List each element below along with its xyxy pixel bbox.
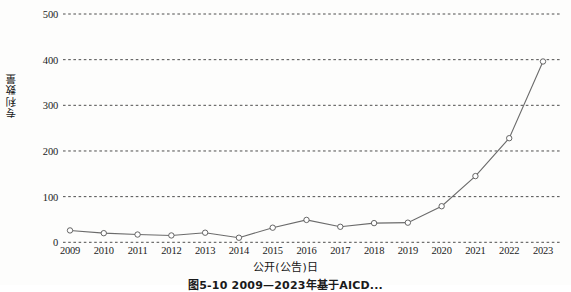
y-tick-100: 100: [20, 191, 58, 202]
x-tick-2023: 2023: [533, 245, 553, 256]
y-tick-300: 300: [20, 100, 58, 111]
data-point-2010: [101, 230, 106, 235]
data-markers-group: [67, 59, 545, 241]
data-point-2022: [507, 136, 512, 141]
data-point-2019: [405, 220, 410, 225]
data-point-2016: [304, 217, 309, 222]
x-tick-2019: 2019: [398, 245, 418, 256]
data-point-2020: [439, 204, 444, 209]
data-point-2014: [236, 235, 241, 240]
gridlines-group: [63, 14, 562, 242]
x-tick-2018: 2018: [364, 245, 384, 256]
x-tick-2011: 2011: [128, 245, 148, 256]
x-axis-title: 公开(公告)日: [0, 258, 571, 274]
x-tick-2014: 2014: [229, 245, 249, 256]
data-point-2023: [540, 59, 545, 64]
x-tick-2021: 2021: [465, 245, 485, 256]
data-point-2021: [473, 173, 478, 178]
y-tick-400: 400: [20, 54, 58, 65]
data-point-2017: [338, 224, 343, 229]
data-point-2012: [169, 233, 174, 238]
x-tick-2015: 2015: [263, 245, 283, 256]
data-point-2018: [371, 220, 376, 225]
x-tick-2017: 2017: [330, 245, 350, 256]
data-point-2013: [202, 230, 207, 235]
x-tick-2012: 2012: [161, 245, 181, 256]
data-point-2015: [270, 225, 275, 230]
data-line: [70, 61, 543, 237]
data-point-2011: [135, 232, 140, 237]
x-tick-2013: 2013: [195, 245, 215, 256]
x-tick-2010: 2010: [94, 245, 114, 256]
x-tick-2020: 2020: [431, 245, 451, 256]
data-point-2009: [67, 228, 72, 233]
y-tick-200: 200: [20, 146, 58, 157]
x-tick-2009: 2009: [60, 245, 80, 256]
x-tick-2016: 2016: [296, 245, 316, 256]
y-tick-500: 500: [20, 9, 58, 20]
x-tick-2022: 2022: [499, 245, 519, 256]
y-tick-0: 0: [20, 237, 58, 248]
figure-caption: 图5-10 2009—2023年基于AICD...: [0, 276, 571, 292]
